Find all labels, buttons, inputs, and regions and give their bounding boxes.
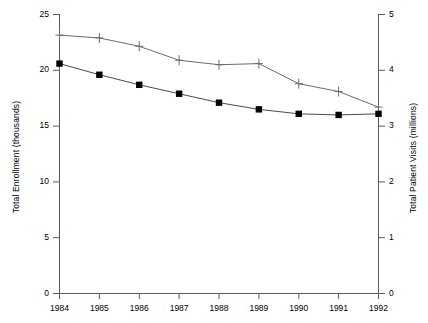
x-tick-label: 1988: [199, 303, 239, 313]
chart-figure: Total Enrollment (thousands) Total Patie…: [0, 0, 428, 323]
left-tick-label: 5: [19, 232, 49, 242]
patient-visits-line: [60, 35, 379, 107]
right-tick-label: 4: [389, 64, 419, 74]
right-tick-label: 1: [389, 232, 419, 242]
x-tick-label: 1984: [40, 303, 80, 313]
patient-visits-point: [215, 60, 223, 70]
enrollment-point: [256, 106, 262, 112]
left-tick-label: 25: [19, 9, 49, 19]
x-tick-label: 1985: [79, 303, 119, 313]
enrollment-line: [60, 64, 379, 115]
enrollment-point: [136, 82, 142, 88]
left-axis-title: Total Enrollment (thousands): [11, 77, 21, 237]
right-tick-label: 2: [389, 176, 419, 186]
right-tick-label: 5: [389, 9, 419, 19]
x-tick-label: 1989: [239, 303, 279, 313]
patient-visits-point: [135, 41, 143, 51]
right-tick-label: 3: [389, 120, 419, 130]
enrollment-point: [335, 112, 341, 118]
patient-visits-point: [175, 55, 183, 65]
enrollment-point: [296, 111, 302, 117]
patient-visits-point: [295, 79, 303, 89]
chart-plot-area: [0, 0, 428, 323]
left-tick-label: 20: [19, 64, 49, 74]
bottom-axis-ticks: [60, 294, 379, 300]
right-axis-title: Total Patient Visits (millions): [408, 78, 418, 238]
enrollment-point: [375, 111, 381, 117]
right-axis-ticks: [379, 15, 386, 294]
patient-visits-point: [335, 87, 343, 97]
left-tick-label: 15: [19, 120, 49, 130]
x-tick-label: 1991: [319, 303, 359, 313]
enrollment-point: [96, 72, 102, 78]
patient-visits-point: [95, 33, 103, 43]
patient-visits-point: [255, 59, 263, 69]
x-tick-label: 1986: [119, 303, 159, 313]
left-axis-ticks: [53, 15, 60, 294]
enrollment-point: [176, 91, 182, 97]
enrollment-point: [56, 60, 62, 66]
x-tick-label: 1990: [279, 303, 319, 313]
enrollment-point: [216, 99, 222, 105]
axis-lines: [60, 14, 379, 294]
x-tick-label: 1992: [359, 303, 399, 313]
left-tick-label: 0: [19, 288, 49, 298]
left-tick-label: 10: [19, 176, 49, 186]
patient-visits-point: [56, 30, 64, 40]
right-tick-label: 0: [389, 288, 419, 298]
x-tick-label: 1987: [159, 303, 199, 313]
